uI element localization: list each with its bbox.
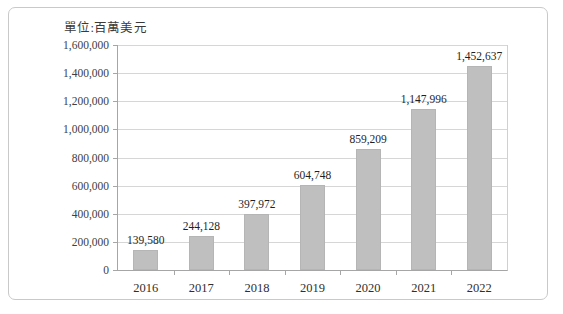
x-axis-tick — [174, 270, 175, 275]
bar-2016[interactable] — [133, 250, 158, 270]
chart-title: 單位:百萬美元 — [64, 17, 147, 36]
x-axis-label-2017: 2017 — [189, 281, 214, 296]
y-axis-tick — [113, 45, 118, 46]
x-axis-tick — [229, 270, 230, 275]
y-axis-label: 200,000 — [72, 236, 109, 248]
gridline — [118, 73, 507, 74]
bar-value-label-2018: 397,972 — [238, 198, 275, 210]
bar-2019[interactable] — [300, 185, 325, 270]
y-axis-tick — [113, 101, 118, 102]
x-axis-tick — [340, 270, 341, 275]
bar-2021[interactable] — [411, 109, 436, 270]
y-axis-label: 0 — [103, 264, 109, 276]
gridline — [118, 101, 507, 102]
y-axis-label: 600,000 — [72, 180, 109, 192]
bar-value-label-2020: 859,209 — [349, 133, 386, 145]
bar-2020[interactable] — [356, 149, 381, 270]
bar-2022[interactable] — [467, 66, 492, 270]
bar-chart: 單位:百萬美元 1,600,0001,400,0001,200,0001,000… — [0, 0, 563, 314]
y-axis-tick — [113, 158, 118, 159]
bar-value-label-2016: 139,580 — [127, 234, 164, 246]
y-axis-tick — [113, 73, 118, 74]
y-axis-label: 1,400,000 — [63, 67, 109, 79]
y-axis-label: 1,200,000 — [63, 95, 109, 107]
bar-2018[interactable] — [244, 214, 269, 270]
x-axis-tick — [396, 270, 397, 275]
y-axis-label: 1,600,000 — [63, 39, 109, 51]
x-axis-label-2018: 2018 — [244, 281, 269, 296]
y-axis-tick — [113, 242, 118, 243]
gridline — [118, 45, 507, 46]
bar-value-label-2021: 1,147,996 — [401, 93, 447, 105]
x-axis-label-2022: 2022 — [467, 281, 492, 296]
y-axis-label: 800,000 — [72, 152, 109, 164]
x-axis-label-2016: 2016 — [133, 281, 158, 296]
y-axis-tick — [113, 270, 118, 271]
x-axis-label-2019: 2019 — [300, 281, 325, 296]
y-axis-tick — [113, 129, 118, 130]
x-axis-label-2021: 2021 — [411, 281, 436, 296]
x-axis-label-2020: 2020 — [356, 281, 381, 296]
gridline — [118, 129, 507, 130]
gridline — [118, 158, 507, 159]
y-axis-label: 400,000 — [72, 208, 109, 220]
bar-2017[interactable] — [189, 236, 214, 270]
plot-area: 1,600,0001,400,0001,200,0001,000,000800,… — [117, 45, 508, 271]
y-axis-tick — [113, 186, 118, 187]
bar-value-label-2017: 244,128 — [183, 220, 220, 232]
bar-value-label-2019: 604,748 — [294, 169, 331, 181]
x-axis-tick — [451, 270, 452, 275]
y-axis-label: 1,000,000 — [63, 123, 109, 135]
bar-value-label-2022: 1,452,637 — [456, 50, 502, 62]
x-axis-tick — [285, 270, 286, 275]
y-axis-tick — [113, 214, 118, 215]
